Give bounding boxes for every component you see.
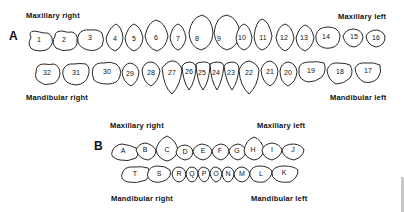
tooth-26[interactable] [182,62,196,90]
svg-text:S: S [157,170,162,177]
svg-text:8: 8 [195,35,199,42]
svg-text:T: T [133,170,138,177]
svg-text:4: 4 [113,35,117,42]
svg-text:24: 24 [212,69,220,76]
svg-text:14: 14 [322,33,330,40]
svg-text:M: M [239,170,245,177]
panel-b-lower-row [122,166,298,183]
svg-text:16: 16 [372,34,380,41]
tooth-23[interactable] [224,62,239,90]
svg-text:P: P [202,170,207,177]
svg-text:29: 29 [126,70,134,77]
tooth-9[interactable] [214,15,240,50]
svg-text:L: L [259,170,263,177]
svg-text:15: 15 [350,33,358,40]
svg-text:B: B [143,146,148,153]
panel-b-mandibular-left-label: Mandibular left [251,194,307,203]
svg-text:28: 28 [147,69,155,76]
svg-text:30: 30 [103,68,111,75]
svg-text:K: K [282,169,287,176]
panel-b-maxillary-right-label: Maxillary right [110,121,164,130]
svg-text:E: E [201,147,206,154]
svg-text:12: 12 [280,34,288,41]
svg-text:20: 20 [284,69,292,76]
svg-text:C: C [164,146,169,153]
svg-text:23: 23 [227,69,235,76]
panel-b-maxillary-left-label: Maxillary left [257,121,305,130]
svg-text:26: 26 [185,68,193,75]
svg-text:18: 18 [336,68,344,75]
svg-text:R: R [176,170,181,177]
svg-text:11: 11 [259,34,266,41]
svg-text:D: D [182,148,187,155]
svg-text:32: 32 [43,69,51,76]
tooth-27[interactable] [162,61,182,94]
svg-text:9: 9 [217,35,221,42]
panel-b-mandibular-right-label: Mandibular right [111,194,173,203]
svg-text:22: 22 [245,69,253,76]
svg-text:25: 25 [198,69,206,76]
svg-text:13: 13 [300,34,308,41]
svg-text:19: 19 [307,67,315,74]
tooth-8[interactable] [189,15,213,50]
svg-text:17: 17 [364,67,372,74]
svg-text:G: G [234,147,239,154]
svg-text:27: 27 [168,69,176,76]
svg-text:7: 7 [176,35,180,42]
panel-b-letter: B [94,139,103,153]
svg-text:Q: Q [189,170,195,178]
svg-text:3: 3 [88,34,92,41]
dental-chart-svg: 1 2 3 4 5 6 7 8 9 10 11 12 13 14 15 16 3 [0,0,404,212]
tooth-25[interactable] [196,62,210,90]
svg-text:I: I [271,146,273,153]
svg-text:J: J [291,146,295,153]
svg-text:A: A [121,147,126,154]
tooth-24[interactable] [210,62,224,90]
svg-text:F: F [218,147,222,154]
svg-text:6: 6 [154,34,158,41]
panel-a-lower-row [36,61,381,94]
svg-text:21: 21 [266,68,274,75]
svg-text:2: 2 [62,36,66,43]
panel-a-upper-row [29,15,385,51]
svg-text:31: 31 [72,69,80,76]
svg-text:N: N [225,170,230,177]
svg-text:H: H [250,146,255,153]
svg-text:O: O [213,170,219,177]
svg-text:10: 10 [238,34,246,41]
tooth-22[interactable] [239,61,259,94]
svg-text:5: 5 [132,35,136,42]
svg-text:1: 1 [37,36,41,43]
panel-b-upper-row [112,136,304,161]
